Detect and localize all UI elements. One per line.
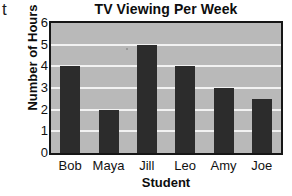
gridline-3 bbox=[51, 87, 281, 89]
scan-speckle-artifact bbox=[126, 48, 128, 50]
y-tick-label: 2 bbox=[41, 103, 48, 117]
chart-title: TV Viewing Per Week bbox=[49, 1, 283, 17]
bar-amy bbox=[214, 88, 234, 153]
gridline-1 bbox=[51, 130, 281, 132]
x-axis-title: Student bbox=[49, 175, 283, 190]
stray-glyph: t bbox=[2, 1, 7, 18]
y-tick-label: 4 bbox=[41, 59, 48, 73]
bar-bob bbox=[60, 66, 80, 153]
gridline-5 bbox=[51, 44, 281, 46]
y-tick-label: 5 bbox=[41, 38, 48, 52]
gridline-4 bbox=[51, 65, 281, 67]
gridline-2 bbox=[51, 109, 281, 111]
x-axis-ticks: BobMayaJillLeoAmyJoe bbox=[49, 158, 283, 174]
bar-leo bbox=[175, 66, 195, 153]
bar-maya bbox=[99, 110, 119, 153]
y-tick-label: 6 bbox=[41, 16, 48, 30]
bar-joe bbox=[252, 99, 272, 153]
bar-jill bbox=[137, 45, 157, 153]
y-tick-label: 1 bbox=[41, 124, 48, 138]
y-axis-title: Number of Hours bbox=[25, 0, 40, 128]
y-tick-label: 3 bbox=[41, 81, 48, 95]
plot-inner bbox=[51, 23, 281, 153]
x-tick-label-joe: Joe bbox=[232, 158, 292, 174]
plot-area bbox=[49, 21, 283, 155]
